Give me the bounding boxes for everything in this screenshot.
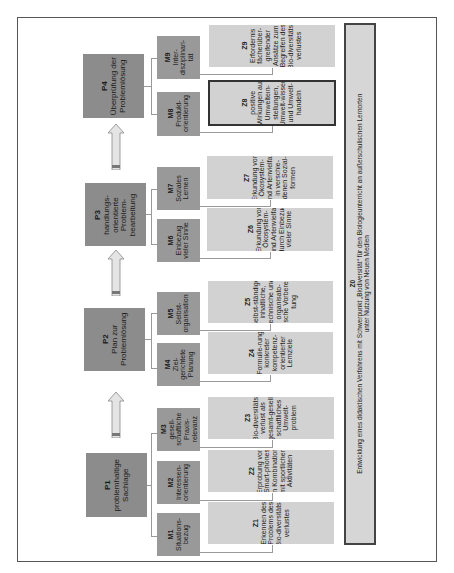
method-m4-label: Ziel-gerichtete Planung — [171, 345, 194, 385]
method-m2: M2Interessen-orientierung — [157, 461, 200, 504]
goal-z2: Z2Erprobung von Smart-phones in Kombinat… — [208, 450, 334, 492]
method-m6-label: Einbezug vieler Sinne — [175, 221, 190, 261]
goal-z7: Z7Erkundung von Ökosystem- und Artenviel… — [207, 156, 333, 199]
overall-goal-z0: Z0 Entwicklung eines didaktischen Verfah… — [344, 23, 376, 545]
connector — [151, 433, 152, 536]
arrow-up-icon — [108, 124, 124, 170]
goal-z3: Z3Bio-diversitäts-verlust als gesamt-ges… — [208, 397, 334, 439]
connector — [270, 252, 271, 259]
phase-p1-label: problemhaltige Sachlage — [112, 456, 130, 514]
goal-z6-label: Erkundung von Ökosystem- und Artenvielfa… — [255, 208, 293, 251]
phase-p4: P4Überprüfung der Problemlösung — [83, 54, 144, 118]
connector — [272, 68, 273, 75]
goal-z3-label: Bio-diversitäts-verlust als gesamt-gesel… — [252, 397, 298, 439]
method-m6-id: M6 — [167, 221, 175, 261]
phase-p4-label: Überprüfung der Problemlösung — [109, 56, 127, 116]
method-m7-label: Soziales Lernen — [175, 169, 190, 209]
goal-z7-label: Erkundung von Ökosystem- und Artenvielfa… — [251, 156, 297, 199]
connector — [200, 330, 270, 331]
connector — [270, 375, 271, 382]
connector — [200, 500, 272, 501]
method-m4-id: M4 — [163, 345, 171, 385]
phase-p1: P1problemhaltige Sachlage — [86, 453, 147, 517]
method-m3-label: gesell-schaftliche Praxis-relevanz — [167, 410, 198, 450]
connector — [272, 126, 273, 133]
method-m9-label: Inter-disziplinari-tät — [171, 38, 194, 78]
goal-z3-id: Z3 — [244, 397, 252, 439]
goal-z1-label: Erkennen des Problems des Bio-diversität… — [259, 502, 290, 544]
overall-goal-label-line2: unter Nutzung von Neuen Medien — [364, 94, 371, 474]
goal-z5: Z5selbst-ständige inhaltliche, technisch… — [208, 281, 333, 323]
method-m3: M3gesell-schaftliche Praxis-relevanz — [157, 408, 200, 451]
goal-z1-id: Z1 — [252, 502, 260, 544]
connector — [272, 545, 273, 553]
phase-p2-label: Plan zur Problemlösung — [110, 310, 128, 368]
method-m8: M8Produkt-orientierung — [157, 92, 200, 136]
connector — [151, 189, 152, 244]
connector — [270, 200, 271, 207]
connector — [200, 258, 270, 259]
connector — [200, 206, 270, 207]
method-m9: M9Inter-disziplinari-tät — [157, 36, 200, 79]
method-m7-id: M7 — [167, 169, 175, 209]
goal-z8-label: positive Wirkungen auf Umwelteın-stellun… — [249, 80, 303, 126]
method-m8-id: M8 — [167, 93, 175, 135]
goal-z2-id: Z2 — [248, 450, 256, 492]
method-m4: M4Ziel-gerichtete Planung — [157, 343, 200, 386]
method-m1: M1Situations-bezug — [157, 513, 200, 556]
phase-p3-id: P3 — [94, 185, 103, 243]
goal-z5-id: Z5 — [244, 281, 252, 323]
connector — [270, 324, 271, 331]
arrow-up-icon — [108, 392, 124, 438]
goal-z8-highlighted: Z8positive Wirkungen auf Umwelteın-stell… — [208, 80, 336, 126]
connector — [151, 58, 152, 114]
connector — [200, 381, 270, 382]
connector — [200, 552, 272, 553]
method-m7: M7Soziales Lernen — [157, 167, 200, 210]
goal-z9-label: Erfordernis fächerüber-greifender Ansätz… — [249, 25, 303, 67]
method-m5-id: M5 — [167, 294, 175, 334]
goal-z8-id: Z8 — [241, 80, 249, 126]
goal-z6-id: Z6 — [247, 208, 255, 251]
phase-p4-id: P4 — [100, 56, 109, 116]
method-m9-id: M9 — [163, 38, 171, 78]
phase-p1-id: P1 — [103, 456, 112, 514]
phase-p3: P3handlungs-orientierte Problem-bearbeit… — [85, 183, 146, 246]
connector — [200, 74, 272, 75]
method-m1-label: Situations-bezug — [175, 515, 190, 555]
goal-z7-id: Z7 — [243, 156, 251, 199]
method-m2-id: M2 — [167, 463, 175, 503]
connector — [272, 440, 273, 448]
phase-p2-id: P2 — [101, 310, 110, 368]
method-m5: M5Selbst-organisation — [157, 292, 200, 335]
overall-goal-label: Entwicklung eines didaktischen Verfahren… — [356, 94, 363, 474]
phase-p2: P2Plan zur Problemlösung — [84, 308, 145, 371]
goal-z2-label: Erprobung von Smart-phones in Kombinatio… — [256, 450, 294, 492]
overall-goal-id: Z0 — [349, 94, 356, 474]
goal-z4: Z4Formulie-rung konkreter kompetenz-orie… — [208, 332, 333, 374]
method-m3-id: M3 — [159, 410, 167, 450]
goal-z1: Z1Erkennen des Problems des Bio-diversit… — [208, 502, 334, 544]
goal-z5-label: selbst-ständige inhaltliche, technische … — [251, 281, 297, 323]
method-m5-label: Selbst-organisation — [175, 294, 190, 334]
goal-z4-id: Z4 — [247, 332, 255, 374]
phase-p3-label: handlungs-orientierte Problem-bearbeitun… — [102, 185, 137, 243]
connector — [144, 86, 151, 87]
method-m6: M6Einbezug vieler Sinne — [157, 219, 200, 262]
goal-z6: Z6Erkundung von Ökosystem- und Artenviel… — [207, 208, 333, 251]
connector — [151, 313, 152, 368]
goal-z9-id: Z9 — [241, 25, 249, 67]
arrow-up-icon — [108, 250, 124, 296]
goal-z9: Z9Erfordernis fächerüber-greifender Ansä… — [209, 25, 335, 67]
connector — [200, 447, 272, 448]
connector — [272, 493, 273, 501]
goal-z4-label: Formulie-rung konkreter kompetenz-orient… — [255, 332, 293, 374]
method-m8-label: Produkt-orientierung — [175, 93, 190, 135]
method-m1-id: M1 — [167, 515, 175, 555]
method-m2-label: Interessen-orientierung — [175, 463, 190, 503]
connector — [200, 132, 272, 133]
